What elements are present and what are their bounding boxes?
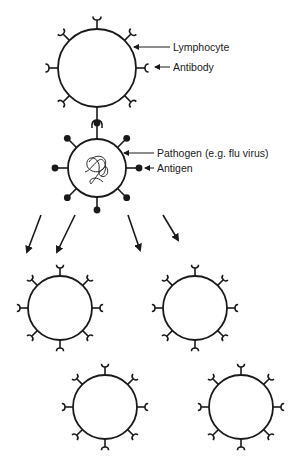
antibody-icon (57, 265, 64, 276)
proliferation-arrow-icon (128, 215, 140, 250)
antibody-icon (273, 404, 284, 411)
antibody-icon (45, 64, 58, 72)
pathogen-membrane (68, 139, 126, 197)
antibody-icon (192, 265, 199, 276)
antigen-icon (64, 135, 77, 148)
antibody-icon (128, 430, 138, 440)
antibody-icon (264, 374, 274, 384)
pathogen-label: Pathogen (e.g. flu virus) (157, 147, 268, 159)
antigen-icon (52, 165, 68, 172)
antibody-icon (58, 96, 70, 108)
antibody-icon (218, 331, 228, 341)
antibody-icon (17, 305, 28, 312)
antibody-icon (27, 275, 37, 285)
clone-lymphocyte (198, 364, 284, 450)
antibody-icon (57, 340, 64, 351)
antibody-icon (238, 439, 245, 450)
antibody-icon (192, 340, 199, 351)
antibody-icon (208, 430, 218, 440)
antibody-icon (238, 364, 245, 375)
cloned-lymphocytes (17, 265, 284, 450)
antibody-icon (58, 29, 70, 41)
antibody-icon (227, 305, 238, 312)
antigen-label: Antigen (157, 162, 193, 174)
proliferation-arrow-icon (57, 215, 75, 252)
antibody-icon (27, 331, 37, 341)
antibody-icon (102, 439, 109, 450)
antibody-icon (125, 96, 137, 108)
proliferation-arrow-icon (27, 215, 41, 252)
lymphocyte-label: Lymphocyte (173, 41, 229, 53)
antibody-icon (152, 305, 163, 312)
antibody-icon (83, 331, 93, 341)
antibody-icon (102, 364, 109, 375)
lymphocyte-cell (45, 16, 148, 128)
antibody-icon (162, 331, 172, 341)
cell-membrane (209, 375, 273, 439)
clonal-selection-diagram: Lymphocyte Antibody Pathogen (e.g. flu v… (0, 0, 298, 468)
cell-membrane (58, 29, 136, 107)
antibody-icon (125, 29, 137, 41)
antigen-icon (94, 197, 101, 213)
antibody-icon (62, 404, 73, 411)
clone-lymphocyte (152, 265, 238, 351)
antibody-icon (83, 275, 93, 285)
antibody-icon (137, 404, 148, 411)
antibody-icon (136, 64, 149, 72)
antibody-icon (264, 430, 274, 440)
antibody-icon (92, 305, 103, 312)
antibody-label: Antibody (173, 61, 215, 73)
antibody-icon (72, 374, 82, 384)
pathogen-cell (52, 120, 143, 214)
antibody-icon (208, 374, 218, 384)
cell-membrane (163, 276, 227, 340)
clone-lymphocyte (62, 364, 148, 450)
antigen-icon (64, 189, 77, 202)
proliferation-arrows (27, 215, 178, 252)
antibody-icon (72, 430, 82, 440)
antibody-icon (162, 275, 172, 285)
antigen-icon (118, 189, 131, 202)
cell-membrane (73, 375, 137, 439)
clone-lymphocyte (17, 265, 103, 351)
antibody-icon (93, 16, 101, 29)
cell-membrane (28, 276, 92, 340)
antibody-icon (198, 404, 209, 411)
antibody-icon (128, 374, 138, 384)
antibody-icon (218, 275, 228, 285)
antigen-icon (94, 120, 101, 139)
antigen-icon (126, 165, 142, 172)
antigen-icon (118, 135, 131, 148)
proliferation-arrow-icon (163, 215, 178, 240)
